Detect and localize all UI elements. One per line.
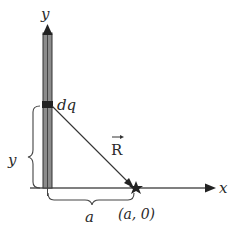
- r-vector-label-arrow-icon: [120, 135, 124, 139]
- y-axis-arrow-icon: [43, 24, 53, 35]
- charged-rod-diagram: y x dq R y a (a, 0): [0, 0, 234, 234]
- x-axis-label: x: [219, 179, 228, 197]
- field-point-label: (a, 0): [118, 206, 155, 222]
- x-axis-arrow-icon: [205, 184, 216, 193]
- y-axis-label: y: [40, 5, 50, 23]
- dq-element: [42, 101, 53, 108]
- r-vector-label: R: [111, 141, 123, 159]
- a-brace: [48, 193, 134, 205]
- y-brace: [28, 106, 40, 188]
- a-brace-label: a: [85, 208, 94, 226]
- dq-label: dq: [57, 96, 76, 114]
- y-brace-label: y: [7, 151, 17, 169]
